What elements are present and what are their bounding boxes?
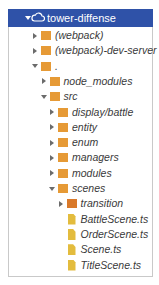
tree-folder-row[interactable]: node_modules [0, 74, 159, 89]
tree-item-label: entity [72, 121, 97, 134]
tree-folder-row[interactable]: entity [0, 120, 159, 135]
tree-folder-row[interactable]: src [0, 89, 159, 104]
chevron-right-icon[interactable] [59, 201, 63, 207]
folder-icon [50, 77, 60, 86]
tree-item-label: enum [72, 136, 98, 149]
tree-root-label: tower-diffense [47, 11, 116, 25]
folder-icon [58, 169, 68, 178]
folder-icon [58, 123, 68, 132]
tree-item-label: scenes [72, 182, 105, 195]
tree-file-row[interactable]: BattleScene.ts [0, 212, 159, 227]
tree-folder-row[interactable]: transition [0, 196, 159, 211]
folder-icon [58, 184, 68, 193]
chevron-right-icon[interactable] [50, 140, 54, 146]
tree-item-label: modules [72, 167, 112, 180]
tree-file-row[interactable]: Scene.ts [0, 242, 159, 257]
folder-icon [58, 138, 68, 147]
tree-folder-row[interactable]: (webpack) [0, 28, 159, 43]
tree-folder-row[interactable]: scenes [0, 181, 159, 196]
file-icon [68, 214, 76, 225]
tree-item-label: transition [81, 197, 124, 210]
tree-folder-row[interactable]: display/battle [0, 105, 159, 120]
tree-item-label: . [55, 60, 58, 73]
folder-icon [58, 153, 68, 162]
file-icon [68, 260, 76, 271]
chevron-right-icon[interactable] [50, 124, 54, 130]
chevron-down-icon[interactable] [49, 187, 55, 191]
tree-folder-row[interactable]: . [0, 59, 159, 74]
folder-icon [41, 31, 51, 40]
tree-folder-row[interactable]: (webpack)-dev-server [0, 43, 159, 58]
tree-folder-row[interactable]: modules [0, 166, 159, 181]
tree-item-label: src [64, 90, 78, 103]
tree-item-label: managers [72, 151, 119, 164]
tree-item-label: TitleScene.ts [81, 259, 142, 272]
folder-icon [41, 62, 51, 71]
tree-item-label: (webpack)-dev-server [55, 44, 157, 57]
chevron-right-icon[interactable] [33, 33, 37, 39]
folder-icon [50, 92, 60, 101]
chevron-right-icon[interactable] [50, 155, 54, 161]
tree-file-row[interactable]: OrderScene.ts [0, 227, 159, 242]
chevron-right-icon[interactable] [50, 109, 54, 115]
tree-item-label: (webpack) [55, 29, 103, 42]
tree-item-label: Scene.ts [81, 243, 122, 256]
chevron-down-icon[interactable] [32, 64, 38, 68]
chevron-down-icon[interactable] [41, 95, 47, 99]
tree-item-label: OrderScene.ts [81, 228, 149, 241]
tree-item-label: display/battle [72, 106, 133, 119]
tree-file-row[interactable]: TitleScene.ts [0, 258, 159, 273]
tree-folder-row[interactable]: managers [0, 150, 159, 165]
tree-item-label: node_modules [64, 75, 133, 88]
folder-icon [58, 108, 68, 117]
folder-icon [41, 46, 51, 55]
chevron-right-icon[interactable] [50, 170, 54, 176]
chevron-right-icon[interactable] [33, 48, 37, 54]
chevron-right-icon[interactable] [42, 78, 46, 84]
folder-icon [67, 199, 77, 208]
cloud-icon [31, 12, 45, 22]
file-icon [68, 229, 76, 240]
file-icon [68, 244, 76, 255]
tree-item-label: BattleScene.ts [81, 213, 149, 226]
tree-folder-row[interactable]: enum [0, 135, 159, 150]
